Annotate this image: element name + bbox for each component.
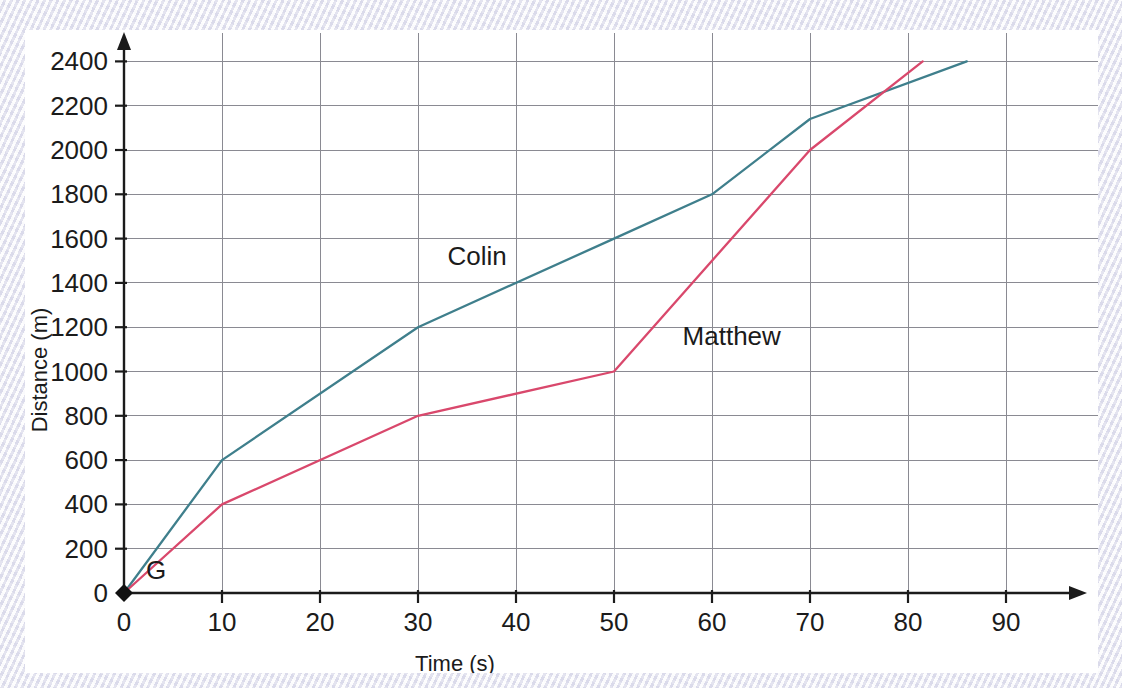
y-axis-tick-label: 600 <box>65 445 108 475</box>
y-axis-tick-label: 2400 <box>50 46 108 76</box>
horizontal-gridlines <box>124 61 1098 548</box>
axes <box>117 32 1087 600</box>
origin-point-label: G <box>146 555 166 585</box>
figure-panel: 0200400600800100012001400160018002000220… <box>25 30 1098 673</box>
x-axis-title: Time (s) <box>415 651 495 673</box>
series-label-matthew: Matthew <box>683 321 781 351</box>
x-axis-tick-label: 90 <box>992 607 1021 637</box>
x-axis-tick-label: 20 <box>306 607 335 637</box>
y-axis-tick-label: 2000 <box>50 135 108 165</box>
series-label-colin: Colin <box>447 241 506 271</box>
x-axis-tick-label: 80 <box>894 607 923 637</box>
y-axis-tick-label: 1200 <box>50 312 108 342</box>
x-axis-tick-label: 10 <box>208 607 237 637</box>
tick-marks <box>115 61 1006 603</box>
y-axis-tick-label: 1000 <box>50 357 108 387</box>
x-axis-arrowhead <box>1069 586 1087 600</box>
x-axis-tick-label: 50 <box>600 607 629 637</box>
y-axis-tick-label: 2200 <box>50 91 108 121</box>
y-axis-tick-label: 0 <box>94 578 108 608</box>
y-axis-tick-label: 1800 <box>50 179 108 209</box>
y-axis-tick-label: 1600 <box>50 224 108 254</box>
y-axis-tick-label: 1400 <box>50 268 108 298</box>
text-labels: 0200400600800100012001400160018002000220… <box>27 46 1020 673</box>
x-axis-tick-label: 0 <box>117 607 131 637</box>
x-axis-tick-label: 70 <box>796 607 825 637</box>
x-axis-tick-label: 30 <box>404 607 433 637</box>
y-axis-title: Distance (m) <box>27 308 52 433</box>
y-axis-tick-label: 200 <box>65 534 108 564</box>
x-axis-tick-label: 40 <box>502 607 531 637</box>
x-axis-tick-label: 60 <box>698 607 727 637</box>
vertical-gridlines <box>222 33 1006 593</box>
chart-canvas: 0200400600800100012001400160018002000220… <box>25 30 1098 673</box>
y-axis-tick-label: 800 <box>65 401 108 431</box>
y-axis-arrowhead <box>117 32 131 50</box>
y-axis-tick-label: 400 <box>65 489 108 519</box>
distance-time-graph: 0200400600800100012001400160018002000220… <box>25 30 1098 673</box>
